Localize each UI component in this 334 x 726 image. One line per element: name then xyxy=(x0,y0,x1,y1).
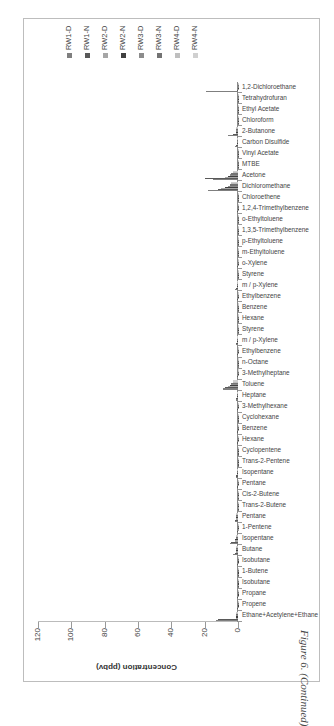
x-tick xyxy=(238,301,242,302)
category-text: Propene xyxy=(242,600,266,607)
bar-rw2-n xyxy=(237,396,238,397)
y-tick-label: 40 xyxy=(166,628,175,652)
x-tick xyxy=(238,467,242,468)
x-tick xyxy=(238,202,242,203)
bar-rw3-d xyxy=(238,593,239,594)
bar-rw3-n xyxy=(237,140,238,141)
legend-label: RW4-D xyxy=(172,26,181,50)
bar-rw1-n xyxy=(238,255,239,256)
bar-rw2-d xyxy=(236,133,238,134)
bar-rw2-d xyxy=(238,562,239,563)
bar-rw3-d xyxy=(237,285,238,286)
bar-rw4-d xyxy=(236,536,239,537)
bar-rw3-n xyxy=(238,372,239,373)
bar-rw4-n xyxy=(238,436,239,437)
legend-swatch xyxy=(85,53,90,58)
bar-rw2-n xyxy=(237,341,238,342)
bar-rw4-d xyxy=(238,205,239,206)
bar-rw1-d xyxy=(237,355,238,356)
y-tick-label: 20 xyxy=(200,628,209,652)
bar-rw2-n xyxy=(237,286,238,287)
bar-rw3-d xyxy=(231,384,238,385)
bar-rw4-d xyxy=(238,371,239,372)
category-text: Hexane xyxy=(242,435,264,442)
bar-rw2-d xyxy=(235,540,238,541)
bar-rw3-d xyxy=(238,428,239,429)
bar-rw4-d xyxy=(236,128,238,129)
bar-rw1-d xyxy=(237,267,238,268)
category-text: Butane xyxy=(242,545,262,552)
x-tick xyxy=(238,434,242,435)
bar-rw4-n xyxy=(238,590,239,591)
bar-rw1-n xyxy=(236,398,238,399)
category-text: Isopentane xyxy=(242,534,274,541)
y-tick-label: 120 xyxy=(33,628,42,652)
category-text: Ethane+Acetylene+Ethane xyxy=(242,612,318,619)
bar-rw1-n xyxy=(235,553,238,554)
bar-rw4-n xyxy=(238,557,239,558)
category-text: 2-Butanone xyxy=(242,127,275,134)
bar-rw3-d xyxy=(238,373,239,374)
x-tick xyxy=(238,379,242,380)
legend-label: RW2-D xyxy=(100,26,109,50)
x-category-label: 1,2-Dichloroethane xyxy=(242,75,322,86)
bar-rw1-d xyxy=(223,388,238,389)
category-text: Isobutane xyxy=(242,578,270,585)
bar-rw2-n xyxy=(236,616,238,617)
bar-rw1-d xyxy=(237,444,238,445)
bar-rw3-d xyxy=(238,263,239,264)
bar-rw3-n xyxy=(238,559,239,560)
bar-rw3-n xyxy=(236,515,238,516)
bar-rw3-n xyxy=(236,537,239,538)
bar-rw1-d xyxy=(230,543,238,544)
bar-rw1-n xyxy=(237,299,238,300)
x-tick xyxy=(238,290,242,291)
bar-rw1-d xyxy=(238,421,239,422)
category-text: 1-Pentene xyxy=(242,523,272,530)
legend-swatch xyxy=(193,53,198,58)
bar-rw2-d xyxy=(238,265,239,266)
x-tick xyxy=(238,478,242,479)
bar-rw1-n xyxy=(205,178,238,179)
bar-rw1-d xyxy=(238,322,239,323)
bar-rw4-n xyxy=(237,469,238,470)
legend-item-rw4-n: RW4-N xyxy=(190,26,199,58)
category-text: Pentane xyxy=(242,512,266,519)
category-text: Pentane xyxy=(242,479,266,486)
bar-rw2-n xyxy=(236,550,238,551)
bar-rw3-n xyxy=(236,548,238,549)
bar-rw1-n xyxy=(237,597,238,598)
bar-rw2-d xyxy=(237,342,238,343)
bar-rw1-d xyxy=(236,344,238,345)
category-text: Heptane xyxy=(242,391,266,398)
bar-rw1-d xyxy=(235,521,238,522)
bar-rw1-d xyxy=(237,609,238,610)
bar-rw3-n xyxy=(238,482,239,483)
bar-rw2-d xyxy=(237,397,238,398)
bar-rw3-d xyxy=(237,340,238,341)
legend: RW1-DRW1-NRW2-DRW2-NRW3-DRW3-NRW4-DRW4-N xyxy=(64,28,304,68)
x-tick xyxy=(238,279,242,280)
bar-rw1-n xyxy=(237,90,238,91)
x-tick xyxy=(238,412,242,413)
bar-rw4-d xyxy=(236,613,238,614)
category-text: 3-Methylheptane xyxy=(242,369,290,376)
category-text: o-Ethyltoluene xyxy=(242,215,283,222)
bar-rw2-d xyxy=(238,408,239,409)
legend-label: RW1-D xyxy=(64,26,73,50)
bar-rw4-d xyxy=(233,382,238,383)
bar-rw4-d xyxy=(238,426,239,427)
category-text: 1-Butene xyxy=(242,567,268,574)
category-text: Benzene xyxy=(242,424,267,431)
bar-rw4-d xyxy=(237,282,238,283)
category-text: Carbon Disulfide xyxy=(242,138,289,145)
x-tick xyxy=(238,423,242,424)
bar-rw1-d xyxy=(238,333,239,334)
bar-rw2-d xyxy=(237,144,238,145)
bar-rw4-d xyxy=(238,293,239,294)
y-tick-label: 0 xyxy=(233,628,242,652)
legend-item-rw2-d: RW2-D xyxy=(100,26,109,58)
legend-item-rw1-d: RW1-D xyxy=(64,26,73,58)
x-tick xyxy=(238,213,242,214)
x-tick xyxy=(238,401,242,402)
